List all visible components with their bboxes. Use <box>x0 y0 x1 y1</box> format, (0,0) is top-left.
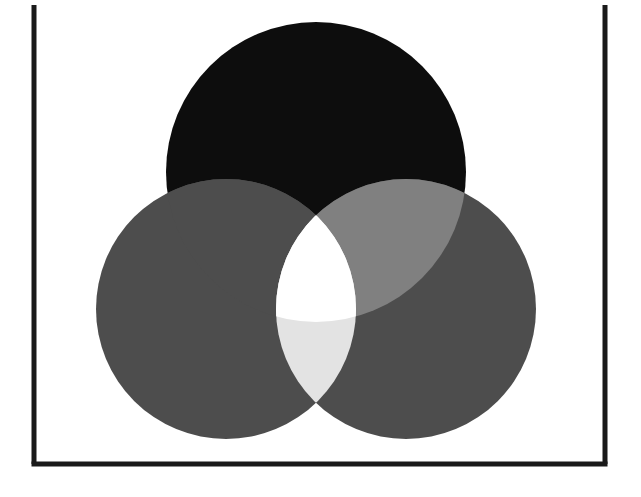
venn-diagram-plot <box>0 0 641 497</box>
venn-region-group <box>96 22 536 439</box>
figure-canvas <box>0 0 641 497</box>
